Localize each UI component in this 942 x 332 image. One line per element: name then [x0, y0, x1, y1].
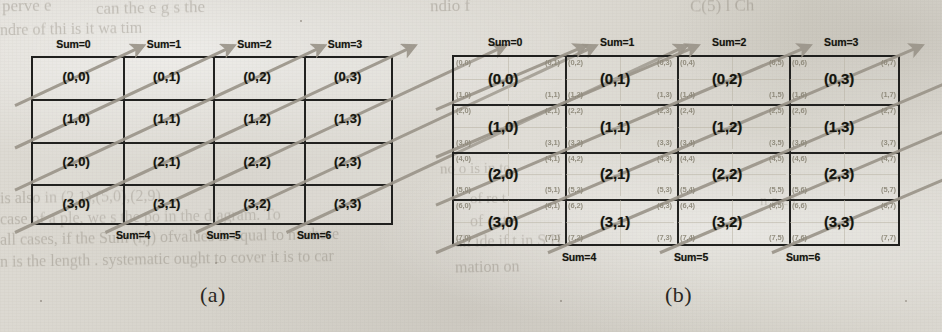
grid-b-cell: (4,2)(4,3)(5,2)(5,3)(2,1)	[564, 151, 676, 199]
cell-sub-label-br: (7,5)	[769, 233, 784, 242]
cell-sub-label-bl: (1,2)	[568, 90, 583, 99]
grid-b-cell: (4,6)(4,7)(5,6)(5,7)(2,3)	[788, 151, 900, 199]
cell-sub-label-bl: (1,0)	[456, 90, 471, 99]
cell-label: (3,3)	[783, 213, 895, 230]
cell-sub-label-br: (3,5)	[769, 138, 784, 147]
cell-sub-label-bl: (5,2)	[568, 185, 583, 194]
cell-sub-label-tr: (2,1)	[545, 106, 560, 115]
cell-sub-label-tl: (0,4)	[680, 58, 695, 67]
cell-sub-label-br: (7,3)	[657, 233, 672, 242]
cell-label: (3,2)	[671, 213, 783, 230]
cell-sub-label-bl: (7,0)	[456, 233, 471, 242]
cell-sub-label-tl: (6,2)	[568, 201, 583, 210]
cell-sub-label-br: (3,1)	[545, 138, 560, 147]
cell-label: (2,2)	[671, 165, 783, 182]
grid-b-cell: (6,6)(6,7)(7,6)(7,7)(3,3)	[788, 198, 900, 246]
cell-sub-label-br: (5,1)	[545, 185, 560, 194]
cell-sub-label-tr: (2,5)	[769, 106, 784, 115]
grid-b-cell: (0,2)(0,3)(1,2)(1,3)(0,1)	[564, 55, 676, 103]
cell-sub-label-br: (7,7)	[881, 233, 896, 242]
sum-label-bottom: Sum=5	[674, 251, 708, 263]
grid-b-cell: (0,0)(0,1)(1,0)(1,1)(0,0)	[452, 55, 564, 103]
sum-label-top: Sum=2	[712, 36, 746, 48]
cell-sub-label-tr: (0,3)	[657, 58, 672, 67]
cell-sub-label-bl: (3,4)	[680, 138, 695, 147]
cell-sub-label-tl: (2,6)	[792, 106, 807, 115]
cell-sub-label-bl: (3,0)	[456, 138, 471, 147]
grid-b-cell: (4,4)(4,5)(5,4)(5,5)(2,2)	[676, 151, 788, 199]
cell-sub-label-tr: (4,5)	[769, 154, 784, 163]
cell-sub-label-tr: (6,1)	[545, 201, 560, 210]
cell-sub-label-tl: (6,0)	[456, 201, 471, 210]
cell-sub-label-br: (5,5)	[769, 185, 784, 194]
cell-sub-label-br: (7,1)	[545, 233, 560, 242]
cell-sub-label-bl: (5,6)	[792, 185, 807, 194]
cell-label: (1,0)	[447, 117, 559, 134]
cell-sub-label-tr: (0,1)	[545, 58, 560, 67]
cell-sub-label-tr: (4,7)	[881, 154, 896, 163]
cell-label: (2,0)	[447, 165, 559, 182]
cell-sub-label-tl: (4,2)	[568, 154, 583, 163]
sum-label-top: Sum=1	[600, 36, 634, 48]
grid-b-cell: (6,4)(6,5)(7,4)(7,5)(3,2)	[676, 198, 788, 246]
sum-label-bottom: Sum=6	[786, 251, 820, 263]
grid-b-cell: (2,6)(2,7)(3,6)(3,7)(1,3)	[788, 103, 900, 151]
cell-sub-label-tr: (2,3)	[657, 106, 672, 115]
grid-b-cell: (0,6)(0,7)(1,6)(1,7)(0,3)	[788, 55, 900, 103]
cell-sub-label-br: (1,7)	[881, 90, 896, 99]
sum-label-top: Sum=0	[488, 36, 522, 48]
grid-b-cell: (2,2)(2,3)(3,2)(3,3)(1,1)	[564, 103, 676, 151]
cell-sub-label-bl: (3,6)	[792, 138, 807, 147]
cell-sub-label-tl: (4,6)	[792, 154, 807, 163]
cell-sub-label-tl: (0,2)	[568, 58, 583, 67]
cell-sub-label-tr: (4,1)	[545, 154, 560, 163]
grid-b-cell: (6,2)(6,3)(7,2)(7,3)(3,1)	[564, 198, 676, 246]
cell-sub-label-tl: (2,0)	[456, 106, 471, 115]
cell-sub-label-tl: (4,0)	[456, 154, 471, 163]
cell-sub-label-bl: (7,6)	[792, 233, 807, 242]
cell-label: (0,2)	[671, 70, 783, 87]
cell-sub-label-br: (3,7)	[881, 138, 896, 147]
sum-label-top: Sum=3	[824, 36, 858, 48]
cell-sub-label-bl: (1,4)	[680, 90, 695, 99]
cell-label: (1,2)	[671, 117, 783, 134]
cell-label: (2,3)	[783, 165, 895, 182]
caption-b: (b)	[665, 282, 692, 308]
cell-sub-label-tl: (0,0)	[456, 58, 471, 67]
cell-sub-label-tr: (6,3)	[657, 201, 672, 210]
cell-label: (1,3)	[783, 117, 895, 134]
cell-sub-label-tr: (0,7)	[881, 58, 896, 67]
cell-label: (3,0)	[447, 213, 559, 230]
cell-sub-label-br: (5,3)	[657, 185, 672, 194]
cell-sub-label-tl: (6,6)	[792, 201, 807, 210]
cell-sub-label-br: (3,3)	[657, 138, 672, 147]
cell-label: (0,3)	[783, 70, 895, 87]
cell-sub-label-tr: (2,7)	[881, 106, 896, 115]
cell-sub-label-bl: (5,4)	[680, 185, 695, 194]
cell-sub-label-tl: (6,4)	[680, 201, 695, 210]
sum-label-bottom: Sum=4	[562, 251, 596, 263]
grid-b-cell: (0,4)(0,5)(1,4)(1,5)(0,2)	[676, 55, 788, 103]
cell-label: (2,1)	[559, 165, 671, 182]
cell-label: (1,1)	[559, 117, 671, 134]
cell-sub-label-tr: (4,3)	[657, 154, 672, 163]
cell-sub-label-bl: (7,2)	[568, 233, 583, 242]
cell-sub-label-br: (1,5)	[769, 90, 784, 99]
cell-sub-label-tl: (2,2)	[568, 106, 583, 115]
cell-sub-label-tl: (0,6)	[792, 58, 807, 67]
cell-label: (3,1)	[559, 213, 671, 230]
cell-sub-label-tr: (0,5)	[769, 58, 784, 67]
cell-sub-label-bl: (3,2)	[568, 138, 583, 147]
cell-sub-label-tr: (6,5)	[769, 201, 784, 210]
cell-sub-label-bl: (1,6)	[792, 90, 807, 99]
cell-sub-label-tr: (6,7)	[881, 201, 896, 210]
cell-sub-label-br: (1,1)	[545, 90, 560, 99]
cell-label: (0,0)	[447, 70, 559, 87]
grid-b-cell: (6,0)(6,1)(7,0)(7,1)(3,0)	[452, 198, 564, 246]
cell-sub-label-tl: (4,4)	[680, 154, 695, 163]
cell-sub-label-br: (5,7)	[881, 185, 896, 194]
cell-sub-label-bl: (7,4)	[680, 233, 695, 242]
cell-label: (0,1)	[559, 70, 671, 87]
grid-b-cell: (2,0)(2,1)(3,0)(3,1)(1,0)	[452, 103, 564, 151]
cell-sub-label-br: (1,3)	[657, 90, 672, 99]
